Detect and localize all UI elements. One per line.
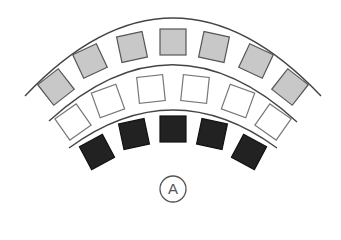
white-square (55, 104, 91, 140)
gray-square (272, 69, 308, 105)
inner-row (79, 116, 266, 170)
white-square (91, 84, 124, 117)
white-square (137, 75, 166, 104)
gray-square (239, 44, 274, 79)
gray-square (38, 69, 74, 105)
white-square (181, 75, 210, 104)
black-square (231, 134, 266, 169)
black-square (79, 134, 114, 169)
gray-square (117, 32, 148, 63)
gray-square (199, 32, 230, 63)
gray-square (73, 44, 108, 79)
black-square (160, 116, 186, 142)
white-square (221, 84, 254, 117)
white-square (255, 104, 291, 140)
black-square (119, 119, 150, 150)
outer-row (38, 29, 308, 105)
black-square (197, 119, 228, 150)
gray-square (160, 29, 186, 55)
diagram-label: A (160, 176, 186, 202)
